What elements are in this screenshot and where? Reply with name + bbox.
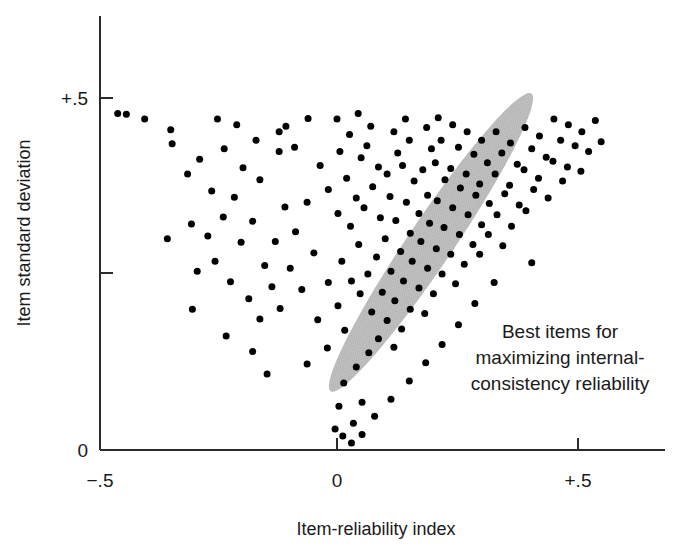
data-point	[430, 290, 437, 297]
data-point	[233, 121, 240, 128]
data-point	[493, 128, 500, 135]
data-point	[399, 162, 406, 169]
data-point	[592, 117, 599, 124]
data-point	[508, 223, 515, 230]
data-point	[363, 142, 370, 149]
data-point	[375, 163, 382, 170]
data-point	[387, 193, 394, 200]
data-point	[415, 285, 422, 292]
data-point	[522, 207, 529, 214]
data-point	[439, 341, 446, 348]
data-point	[577, 168, 584, 175]
data-point	[572, 142, 579, 149]
data-point	[369, 183, 376, 190]
data-point	[304, 199, 311, 206]
data-point	[164, 235, 171, 242]
data-point	[428, 145, 435, 152]
data-point	[543, 154, 550, 161]
data-point	[204, 232, 211, 239]
data-point	[391, 297, 398, 304]
data-point	[557, 137, 564, 144]
data-point	[402, 116, 409, 123]
y-axis-title: Item standard deviation	[14, 139, 34, 326]
data-point	[367, 123, 374, 130]
data-point	[382, 235, 389, 242]
data-point	[449, 204, 456, 211]
data-point	[212, 258, 219, 265]
scatter-plot-figure: +.5 0 −.5 0 +.5 Item-reliability index I…	[0, 0, 684, 553]
data-point	[346, 131, 353, 138]
data-point	[196, 156, 203, 163]
data-point	[276, 128, 283, 135]
data-point	[550, 116, 557, 123]
x-tick-label-upper: +.5	[565, 470, 592, 491]
data-point	[535, 175, 542, 182]
x-axis-title: Item-reliability index	[296, 519, 455, 539]
data-point	[223, 332, 230, 339]
data-point	[452, 280, 459, 287]
x-tick-label-zero: 0	[332, 470, 343, 491]
data-point	[325, 279, 332, 286]
data-point	[324, 344, 331, 351]
data-point	[407, 230, 414, 237]
data-point	[249, 218, 256, 225]
data-point	[491, 279, 498, 286]
data-point	[214, 116, 221, 123]
data-point	[169, 140, 176, 147]
data-point	[409, 258, 416, 265]
data-point	[220, 213, 227, 220]
data-point	[256, 316, 263, 323]
data-point	[227, 278, 234, 285]
data-point	[221, 145, 228, 152]
data-point	[334, 116, 341, 123]
data-point	[438, 137, 445, 144]
data-point	[335, 403, 342, 410]
data-point	[249, 348, 256, 355]
data-point	[189, 306, 196, 313]
data-point	[353, 363, 360, 370]
data-point	[470, 151, 477, 158]
data-point	[287, 265, 294, 272]
callout-line-2: maximizing internal-	[476, 347, 645, 368]
data-point	[465, 211, 472, 218]
data-point	[516, 202, 523, 209]
data-point	[348, 278, 355, 285]
callout-line-3: consistency reliability	[471, 373, 650, 394]
data-point	[368, 309, 375, 316]
data-point	[424, 265, 431, 272]
data-point	[339, 432, 346, 439]
data-point	[390, 128, 397, 135]
data-point	[419, 166, 426, 173]
data-point	[478, 137, 485, 144]
data-point	[406, 137, 413, 144]
data-point	[494, 211, 501, 218]
data-point	[268, 283, 275, 290]
data-point	[261, 262, 268, 269]
data-point	[423, 124, 430, 131]
data-point	[455, 144, 462, 151]
callout-line-1: Best items for	[502, 321, 619, 342]
data-point	[398, 325, 405, 332]
data-point	[282, 123, 289, 130]
data-point	[292, 228, 299, 235]
data-point	[463, 171, 470, 178]
data-point	[528, 259, 535, 266]
data-point	[364, 271, 371, 278]
data-point	[375, 335, 382, 342]
data-point	[336, 148, 343, 155]
data-point	[281, 204, 288, 211]
data-point	[421, 310, 428, 317]
data-point	[498, 149, 505, 156]
data-point	[291, 144, 298, 151]
best-items-callout: Best items for maximizing internal- cons…	[471, 321, 650, 394]
data-point	[379, 289, 386, 296]
data-point	[501, 190, 508, 197]
data-point	[545, 194, 552, 201]
data-point	[499, 242, 506, 249]
data-point	[359, 399, 366, 406]
data-point	[397, 248, 404, 255]
data-point	[325, 186, 332, 193]
data-point	[314, 316, 321, 323]
data-point	[598, 138, 605, 145]
data-point	[387, 268, 394, 275]
